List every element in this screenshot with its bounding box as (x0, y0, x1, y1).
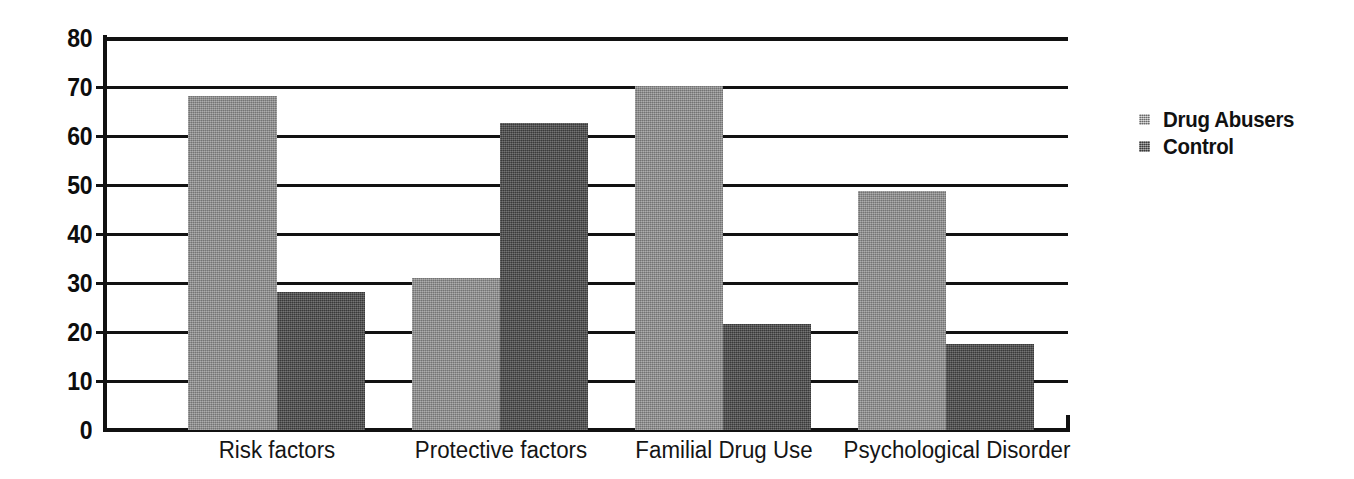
gridline-80 (103, 37, 1068, 41)
y-axis-tick-label: 0 (33, 418, 92, 443)
legend-item-label: Drug Abusers (1163, 109, 1294, 131)
bar-drug-abusers-psychological-disorder (858, 191, 946, 430)
y-axis-tick-label: 20 (33, 320, 92, 345)
bar-control-risk-factors (277, 292, 365, 430)
bar-control-protective-factors (500, 123, 588, 430)
x-axis-category-label-risk-factors: Risk factors (169, 437, 384, 463)
legend-swatch-icon (1139, 114, 1150, 125)
bar-drug-abusers-familial-drug-use (635, 86, 723, 430)
bar-control-psychological-disorder (946, 344, 1034, 430)
y-axis-tick-label: 50 (33, 173, 92, 198)
y-axis-tick-label: 10 (33, 369, 92, 394)
y-axis-tick-label: 30 (33, 271, 92, 296)
legend-item-label: Control (1163, 136, 1234, 158)
x-axis-category-label-protective-factors: Protective factors (393, 437, 608, 463)
y-axis-tick-label: 70 (33, 75, 92, 100)
bar-drug-abusers-risk-factors (188, 96, 277, 430)
bar-drug-abusers-protective-factors (412, 278, 500, 430)
legend-item-control: Control (1139, 133, 1304, 160)
x-axis-category-label-familial-drug-use: Familial Drug Use (616, 437, 831, 463)
x-axis-category-label-psychological-disorder: Psychological Disorder (836, 437, 1079, 463)
legend: Drug Abusers Control (1139, 106, 1304, 160)
y-axis-tick-label: 60 (33, 124, 92, 149)
legend-item-drug-abusers: Drug Abusers (1139, 106, 1304, 133)
bar-control-familial-drug-use (723, 324, 811, 430)
y-axis-tick-label: 40 (33, 222, 92, 247)
bar-chart: 80 70 60 50 40 30 20 10 0 (0, 0, 1354, 479)
legend-swatch-icon (1139, 141, 1150, 152)
plot-area (103, 37, 1068, 430)
y-axis-tick-label: 80 (33, 26, 92, 51)
gridline-70 (103, 86, 1068, 89)
